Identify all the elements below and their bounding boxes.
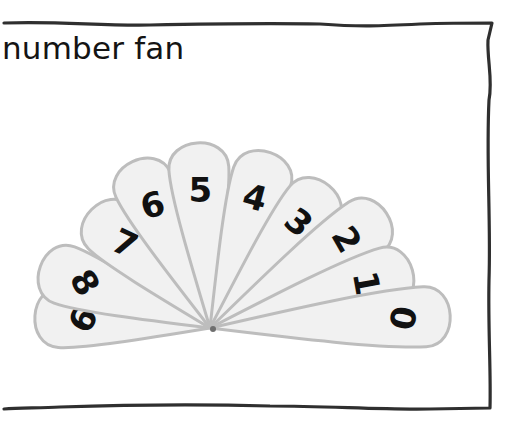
petal-number: 5 [189, 170, 213, 210]
pivot-rivet-icon [210, 326, 216, 332]
number-fan: 9876543210 [0, 0, 511, 425]
